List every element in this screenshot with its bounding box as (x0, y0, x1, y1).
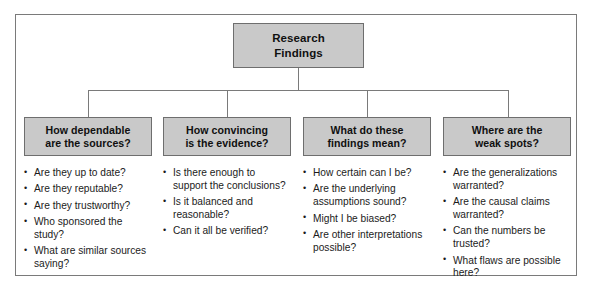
branch-column-1: How dependable are the sources? Are they… (24, 117, 152, 274)
list-item: What are similar sources saying? (24, 245, 152, 271)
list-item: Are the generalizations warranted? (443, 167, 571, 193)
connector-drop-2 (227, 90, 228, 117)
list-item: Are they reputable? (24, 183, 152, 196)
list-item: Who sponsored the study? (24, 216, 152, 242)
branch-header-3-line-2: findings mean? (328, 137, 407, 150)
root-node-research-findings: Research Findings (233, 23, 364, 68)
root-node-line-2: Findings (272, 46, 325, 60)
branch-header-4: Where are the weak spots? (443, 117, 571, 156)
list-item: Are the underlying assumptions sound? (303, 183, 431, 209)
branch-2-list: Is there enough to support the conclusio… (163, 167, 291, 238)
branch-header-2-line-2: is the evidence? (185, 137, 268, 150)
list-item: Is it balanced and reasonable? (163, 196, 291, 222)
list-item: Are they trustworthy? (24, 200, 152, 213)
connector-root-stem (298, 68, 299, 90)
branch-header-4-text: Where are the weak spots? (472, 124, 543, 149)
branch-header-2-text: How convincing is the evidence? (185, 124, 268, 149)
connector-drop-4 (508, 90, 509, 117)
list-item: Are other interpretations possible? (303, 229, 431, 255)
branch-column-3: What do these findings mean? How certain… (303, 117, 431, 258)
branch-header-3-text: What do these findings mean? (328, 124, 407, 149)
list-item: Might I be biased? (303, 213, 431, 226)
branch-4-list: Are the generalizations warranted? Are t… (443, 167, 571, 280)
connector-drop-3 (367, 90, 368, 117)
diagram-canvas: Research Findings How dependable are the… (0, 0, 591, 291)
branch-header-4-line-1: Where are the (472, 124, 543, 137)
connector-horizontal-bus (88, 90, 509, 91)
list-item: Can it all be verified? (163, 225, 291, 238)
list-item: Are the causal claims warranted? (443, 196, 571, 222)
branch-header-3-line-1: What do these (328, 124, 407, 137)
branch-column-2: How convincing is the evidence? Is there… (163, 117, 291, 242)
branch-header-1-line-1: How dependable (45, 124, 131, 137)
list-item: How certain can I be? (303, 167, 431, 180)
list-item: What flaws are possible here? (443, 255, 571, 281)
list-item: Can the numbers be trusted? (443, 225, 571, 251)
branch-column-4: Where are the weak spots? Are the genera… (443, 117, 571, 284)
branch-header-2: How convincing is the evidence? (163, 117, 291, 156)
branch-header-1-line-2: are the sources? (45, 137, 131, 150)
root-node-line-1: Research (272, 31, 325, 45)
root-node-text: Research Findings (272, 31, 325, 59)
branch-header-3: What do these findings mean? (303, 117, 431, 156)
list-item: Are they up to date? (24, 167, 152, 180)
branch-header-2-line-1: How convincing (185, 124, 268, 137)
branch-1-list: Are they up to date? Are they reputable?… (24, 167, 152, 271)
connector-drop-1 (88, 90, 89, 117)
list-item: Is there enough to support the conclusio… (163, 167, 291, 193)
branch-header-4-line-2: weak spots? (472, 137, 543, 150)
branch-header-1-text: How dependable are the sources? (45, 124, 131, 149)
branch-3-list: How certain can I be? Are the underlying… (303, 167, 431, 255)
branch-header-1: How dependable are the sources? (24, 117, 152, 156)
